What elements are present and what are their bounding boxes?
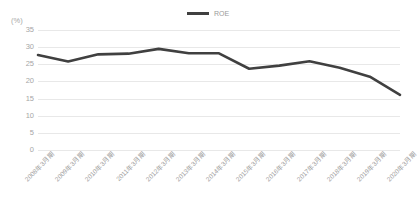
x-axis-tick-label: 2011年3月期	[114, 150, 146, 182]
y-axis-tick-label: 10	[26, 112, 34, 120]
chart-legend: ROE	[0, 10, 416, 17]
roe-line-path	[38, 49, 400, 95]
x-axis-tick-label: 2008年3月期	[23, 150, 56, 183]
plot-area: 35302520151050	[38, 30, 400, 150]
legend-swatch-roe	[187, 12, 209, 15]
x-axis-tick-label: 2019年3月期	[355, 150, 388, 183]
x-axis-tick-label: 2015年3月期	[235, 150, 268, 183]
y-axis-tick-label: 15	[26, 95, 34, 103]
y-axis-tick-label: 0	[30, 146, 34, 154]
x-axis-tick-label: 2014年3月期	[204, 150, 237, 183]
x-axis-tick-label: 2009年3月期	[54, 150, 87, 183]
x-axis-labels: 2008年3月期2009年3月期2010年3月期2011年3月期2012年3月期…	[38, 150, 400, 202]
y-axis-unit-label: (%)	[11, 16, 23, 25]
x-axis-tick-label: 2016年3月期	[265, 150, 298, 183]
x-axis-tick-label: 2017年3月期	[295, 150, 328, 183]
x-axis-tick-label: 2012年3月期	[144, 150, 177, 183]
y-axis-tick-label: 35	[26, 26, 34, 34]
x-axis-tick-label: 2020年3月期	[385, 150, 418, 183]
legend-label-roe: ROE	[214, 10, 229, 17]
x-axis-tick-label: 2010年3月期	[84, 150, 117, 183]
x-axis-tick-label: 2013年3月期	[174, 150, 207, 183]
y-axis-tick-label: 25	[26, 61, 34, 69]
y-axis-tick-label: 20	[26, 78, 34, 86]
series-roe	[38, 30, 400, 150]
y-axis-tick-label: 30	[26, 43, 34, 51]
y-axis-tick-label: 5	[30, 129, 34, 137]
x-axis-tick-label: 2018年3月期	[325, 150, 358, 183]
